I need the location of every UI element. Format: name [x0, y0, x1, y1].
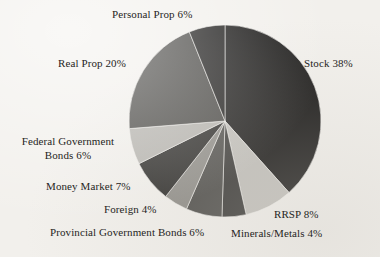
slice-label-provincial-government-bonds: Provincial Government Bonds 6% — [50, 226, 204, 240]
slice-label-personal-prop: Personal Prop 6% — [112, 8, 192, 22]
pie-slice-group — [129, 25, 321, 217]
slice-label-minerals-metals: Minerals/Metals 4% — [231, 227, 322, 241]
slice-label-real-prop: Real Prop 20% — [58, 57, 126, 71]
slice-label-federal-government-bonds-line2: Bonds 6% — [45, 149, 91, 161]
slice-label-rrsp: RRSP 8% — [274, 208, 319, 222]
pie-chart-figure: Personal Prop 6% Stock 38% Real Prop 20%… — [0, 0, 380, 257]
slice-label-federal-government-bonds: Federal Government Bonds 6% — [8, 135, 128, 162]
pie-chart-canvas — [0, 0, 380, 257]
slice-label-stock: Stock 38% — [304, 57, 353, 71]
slice-label-money-market: Money Market 7% — [46, 180, 131, 194]
slice-label-foreign: Foreign 4% — [104, 203, 157, 217]
slice-label-federal-government-bonds-line1: Federal Government — [22, 135, 115, 147]
